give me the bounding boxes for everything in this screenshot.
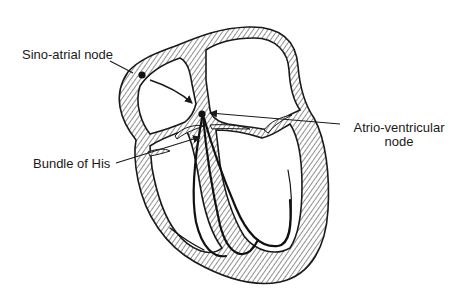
sa-node-label: Sino-atrial node — [22, 48, 113, 62]
conduction-arrow — [150, 80, 192, 103]
av-node-label-line1: Atrio-ventricular — [340, 121, 458, 135]
bundle-of-his-label: Bundle of His — [33, 157, 110, 171]
av-node-dot — [198, 110, 205, 117]
sa-node-dot — [138, 71, 145, 78]
heart-conduction-diagram: Sino-atrial node Atrio-ventricular node … — [0, 0, 461, 296]
sa-node-leader-line — [110, 61, 133, 73]
av-node-label: Atrio-ventricular node — [340, 121, 458, 149]
av-node-label-line2: node — [340, 135, 458, 149]
